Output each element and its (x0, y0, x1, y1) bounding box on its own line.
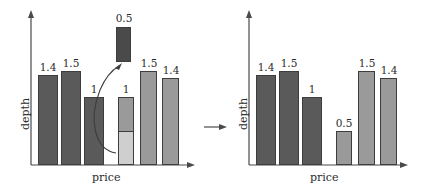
left-y-axis-label: depth (20, 98, 31, 130)
right-x-axis-label: price (310, 172, 339, 183)
bar-1 (256, 75, 276, 165)
right-panel: 1.4 1.5 1 0.5 1.5 1.4 depth price (218, 0, 418, 191)
bar-2 (279, 71, 299, 165)
bar-6 (380, 78, 397, 165)
bar-6-label: 1.4 (375, 65, 403, 76)
bar-4-label: 0.5 (330, 118, 358, 129)
bar-3 (302, 97, 322, 165)
x-axis-arrowhead (400, 162, 408, 168)
bar-4 (336, 131, 352, 165)
left-panel: 1.4 1.5 1 1 1.5 1.4 0.5 depth price (0, 0, 200, 191)
left-x-axis-label: price (92, 172, 121, 183)
y-axis-arrowhead (246, 10, 252, 18)
two-panel-bar-diagram: 1.4 1.5 1 1 1.5 1.4 0.5 depth price (0, 0, 431, 191)
right-y-axis-label: depth (238, 98, 249, 130)
bar-2-label: 1.5 (275, 58, 303, 69)
bar-5 (358, 71, 375, 165)
bar-3-label: 1 (298, 84, 326, 95)
curved-move-arrow-icon (0, 0, 200, 191)
